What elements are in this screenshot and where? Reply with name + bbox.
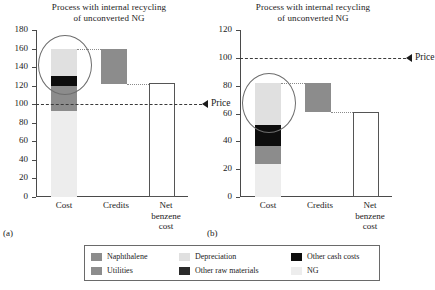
panel-a-xtick-credits: Credits bbox=[88, 200, 144, 211]
legend-label: Depreciation bbox=[195, 252, 236, 262]
y-axis-tick: 60 bbox=[236, 114, 240, 115]
bar-net-benzene-cost bbox=[149, 83, 175, 197]
legend-box: NaphthaleneDepreciationOther cash costsU… bbox=[84, 245, 380, 281]
bar-segment-ng bbox=[255, 164, 281, 197]
legend-item: NG bbox=[291, 266, 377, 276]
y-axis-tick: 180 bbox=[32, 30, 36, 31]
legend-label: Utilities bbox=[107, 266, 133, 276]
panel-b-title: Process with internal recycling of uncon… bbox=[218, 2, 408, 24]
price-reference-line bbox=[36, 104, 202, 105]
y-axis-tick-label: 40 bbox=[19, 154, 28, 165]
y-axis-tick-label: 160 bbox=[15, 43, 29, 54]
y-axis-tick: 0 bbox=[32, 197, 36, 198]
legend-item: Depreciation bbox=[179, 252, 291, 262]
y-axis-tick-label: 0 bbox=[228, 191, 233, 202]
y-axis-tick-label: 60 bbox=[223, 108, 232, 119]
panel-a-plot-area: 020406080100120140160180Price bbox=[36, 30, 188, 197]
legend-swatch-naphthalene bbox=[91, 253, 102, 261]
highlight-circle-annotation bbox=[242, 73, 296, 133]
y-axis-tick: 140 bbox=[32, 67, 36, 68]
y-axis-tick: 120 bbox=[236, 30, 240, 31]
price-arrow-icon bbox=[406, 54, 412, 62]
y-axis-tick-label: 180 bbox=[15, 24, 29, 35]
panel-b-title-line1: Process with internal recycling bbox=[218, 2, 408, 13]
legend-grid: NaphthaleneDepreciationOther cash costsU… bbox=[91, 250, 377, 278]
y-axis-tick: 40 bbox=[32, 160, 36, 161]
y-axis-tick: 0 bbox=[236, 197, 240, 198]
connector-credits-to-net bbox=[127, 84, 149, 85]
y-axis-tick-label: 140 bbox=[15, 61, 29, 72]
y-axis-tick-label: 80 bbox=[223, 80, 232, 91]
panel-a-xtick-cost: Cost bbox=[36, 200, 92, 211]
legend-swatch-other-raw-materials bbox=[179, 267, 190, 275]
panel-b: Process with internal recycling of uncon… bbox=[204, 0, 412, 240]
panel-b-xtick-credits: Credits bbox=[292, 200, 348, 211]
panel-b-xtick-cost: Cost bbox=[240, 200, 296, 211]
panel-a-xtick-net-benzene-cost: Net benzene cost bbox=[138, 200, 194, 232]
panel-a-y-axis bbox=[36, 30, 37, 197]
highlight-circle-annotation bbox=[38, 35, 92, 95]
legend-swatch-utilities bbox=[91, 267, 102, 275]
y-axis-tick-label: 20 bbox=[223, 163, 232, 174]
bar-credits bbox=[305, 83, 331, 112]
y-axis-tick-label: 100 bbox=[219, 52, 233, 63]
y-axis-tick-label: 80 bbox=[19, 117, 28, 128]
legend-item: Utilities bbox=[91, 266, 179, 276]
legend-swatch-ng bbox=[291, 267, 302, 275]
y-axis-tick-label: 60 bbox=[19, 135, 28, 146]
y-axis-tick: 20 bbox=[236, 169, 240, 170]
bar-segment-ng bbox=[51, 111, 77, 197]
panel-b-y-axis bbox=[240, 30, 241, 197]
y-axis-tick: 20 bbox=[32, 178, 36, 179]
legend-label: NG bbox=[307, 266, 319, 276]
connector-credits-to-net bbox=[331, 112, 353, 113]
bar-credits bbox=[101, 49, 127, 84]
legend-swatch-depreciation bbox=[179, 253, 190, 261]
bar-segment-utilities bbox=[255, 146, 281, 164]
y-axis-tick-label: 120 bbox=[15, 80, 29, 91]
legend-item: Other raw materials bbox=[179, 266, 291, 276]
y-axis-tick-label: 20 bbox=[19, 172, 28, 183]
panel-a-title-line2: of unconverted NG bbox=[14, 13, 204, 24]
legend-item: Other cash costs bbox=[291, 252, 377, 262]
price-label: Price bbox=[415, 52, 435, 63]
panel-b-title-line2: of unconverted NG bbox=[218, 13, 408, 24]
y-axis-tick-label: 0 bbox=[24, 191, 29, 202]
panel-a-title-line1: Process with internal recycling bbox=[14, 2, 204, 13]
y-axis-tick: 60 bbox=[32, 141, 36, 142]
y-axis-tick: 80 bbox=[32, 123, 36, 124]
y-axis-tick-label: 40 bbox=[223, 135, 232, 146]
panel-b-plot-area: 020406080100120Price bbox=[240, 30, 392, 197]
y-axis-tick: 120 bbox=[32, 86, 36, 87]
bar-net-benzene-cost bbox=[353, 112, 379, 197]
panel-a-letter: (a) bbox=[3, 228, 13, 239]
legend-label: Naphthalene bbox=[107, 252, 147, 262]
y-axis-tick: 160 bbox=[32, 49, 36, 50]
y-axis-tick: 80 bbox=[236, 86, 240, 87]
legend-label: Other cash costs bbox=[307, 252, 359, 262]
legend-item: Naphthalene bbox=[91, 252, 179, 262]
y-axis-tick-label: 120 bbox=[219, 24, 233, 35]
panel-b-letter: (b) bbox=[207, 228, 218, 239]
legend-label: Other raw materials bbox=[195, 266, 259, 276]
y-axis-tick: 40 bbox=[236, 141, 240, 142]
panel-b-xtick-net-benzene-cost: Net benzene cost bbox=[342, 200, 398, 232]
panel-a: Process with internal recycling of uncon… bbox=[0, 0, 208, 240]
panel-a-title: Process with internal recycling of uncon… bbox=[14, 2, 204, 24]
legend-swatch-other-cash-costs bbox=[291, 253, 302, 261]
price-reference-line bbox=[240, 58, 406, 59]
y-axis-tick-label: 100 bbox=[15, 98, 29, 109]
